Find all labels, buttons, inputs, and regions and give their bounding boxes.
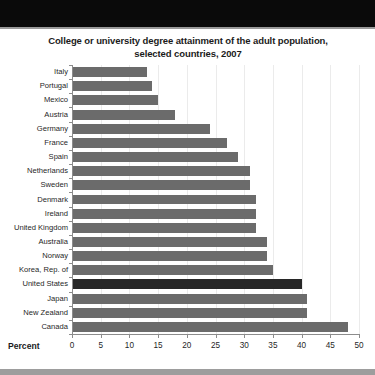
x-axis-tick-label: 40 (287, 341, 317, 350)
bar-row (72, 124, 359, 134)
y-axis-tick (69, 178, 72, 179)
chart-figure: College or university degree attainment … (0, 29, 375, 361)
bar (72, 124, 210, 134)
y-axis-tick (69, 150, 72, 151)
x-axis-title: Percent (8, 341, 64, 351)
category-label: Australia (0, 237, 68, 246)
category-label: Denmark (0, 195, 68, 204)
y-axis-tick (69, 306, 72, 307)
category-label: United States (0, 279, 68, 288)
category-label: United Kingdom (0, 223, 68, 232)
bar-row (72, 110, 359, 120)
x-axis-tick (101, 334, 102, 338)
category-label: Mexico (0, 95, 68, 104)
bar-row (72, 195, 359, 205)
category-label: Netherlands (0, 166, 68, 175)
x-axis-tick-label: 15 (143, 341, 173, 350)
bar (72, 237, 267, 247)
bar (72, 308, 307, 318)
top-decorative-band (0, 0, 375, 27)
bar-row (72, 138, 359, 148)
category-label: Portugal (0, 81, 68, 90)
y-axis-tick (69, 65, 72, 66)
y-axis-tick (69, 207, 72, 208)
chart-title-line-2: selected countries, 2007 (134, 48, 241, 59)
bar (72, 138, 227, 148)
bar-row (72, 308, 359, 318)
y-axis-tick (69, 164, 72, 165)
y-axis-line (72, 65, 73, 335)
category-label: Japan (0, 294, 68, 303)
category-label: Sweden (0, 180, 68, 189)
bottom-decorative-band (0, 369, 375, 375)
x-axis-tick-label: 50 (344, 341, 374, 350)
y-axis-tick (69, 292, 72, 293)
bar-row (72, 237, 359, 247)
bar (72, 67, 147, 77)
bar-row (72, 95, 359, 105)
x-axis-tick-label: 45 (315, 341, 345, 350)
y-axis-tick (69, 221, 72, 222)
y-axis-tick (69, 79, 72, 80)
x-axis-tick (187, 334, 188, 338)
category-label: Norway (0, 251, 68, 260)
category-label: Korea, Rep. of (0, 265, 68, 274)
category-label: Spain (0, 152, 68, 161)
bar-row (72, 180, 359, 190)
bar (72, 180, 250, 190)
bar-row (72, 209, 359, 219)
bar-row (72, 251, 359, 261)
category-label: Canada (0, 322, 68, 331)
x-axis-tick-label: 30 (229, 341, 259, 350)
bar (72, 81, 152, 91)
bar (72, 294, 307, 304)
bar-row (72, 294, 359, 304)
bar (72, 209, 256, 219)
bar (72, 166, 250, 176)
gridline (359, 65, 360, 334)
x-axis-tick-label: 10 (114, 341, 144, 350)
x-axis-tick (244, 334, 245, 338)
y-axis-tick (69, 320, 72, 321)
x-axis-tick-label: 0 (57, 341, 87, 350)
y-axis-tick (69, 277, 72, 278)
category-label: Ireland (0, 209, 68, 218)
bar (72, 110, 175, 120)
x-axis-tick (129, 334, 130, 338)
bar (72, 152, 238, 162)
y-axis-tick (69, 107, 72, 108)
category-label: France (0, 138, 68, 147)
category-label: Germany (0, 124, 68, 133)
y-axis-tick (69, 235, 72, 236)
bar-row (72, 152, 359, 162)
bar-row (72, 265, 359, 275)
category-label: Italy (0, 67, 68, 76)
category-label: Austria (0, 110, 68, 119)
chart-title-line-1: College or university degree attainment … (48, 35, 328, 46)
x-axis-tick (302, 334, 303, 338)
bar-row (72, 223, 359, 233)
y-axis-tick (69, 122, 72, 123)
x-axis-tick (158, 334, 159, 338)
bar (72, 279, 302, 289)
y-axis-tick (69, 263, 72, 264)
bar (72, 223, 256, 233)
bar-row (72, 166, 359, 176)
bar (72, 95, 158, 105)
bar-row (72, 67, 359, 77)
x-axis-tick-label: 35 (258, 341, 288, 350)
y-axis-tick (69, 136, 72, 137)
x-axis-tick-label: 5 (86, 341, 116, 350)
bar-row (72, 81, 359, 91)
bar (72, 322, 348, 332)
bar-row (72, 322, 359, 332)
x-axis-tick (273, 334, 274, 338)
bar (72, 251, 267, 261)
x-axis-tick (359, 334, 360, 338)
y-axis-tick (69, 192, 72, 193)
plot-area (72, 65, 359, 334)
y-axis-tick (69, 249, 72, 250)
bar-row (72, 279, 359, 289)
x-axis-tick-label: 20 (172, 341, 202, 350)
x-axis-tick (216, 334, 217, 338)
